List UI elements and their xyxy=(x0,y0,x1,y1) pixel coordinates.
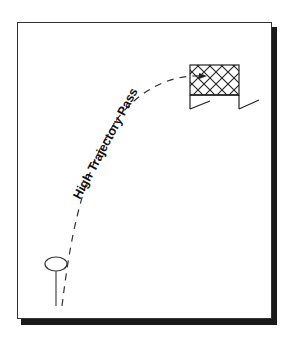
goal-net-icon xyxy=(190,65,259,109)
diagram-canvas: High Trajectory Pass xyxy=(0,0,290,347)
trajectory-label: High Trajectory Pass xyxy=(70,86,140,202)
player-marker-icon xyxy=(45,257,67,306)
